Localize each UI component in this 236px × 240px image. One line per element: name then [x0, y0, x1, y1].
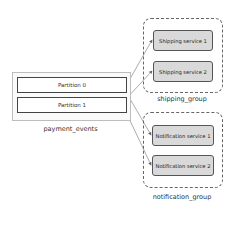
partition-1[interactable]: Partition 1 — [17, 97, 127, 113]
service-notification-2[interactable]: Notification service 2 — [152, 155, 214, 176]
service-notification-1[interactable]: Notification service 1 — [152, 125, 214, 146]
group-notification-label: notification_group — [143, 193, 221, 201]
service-notification-2-label: Notification service 2 — [156, 163, 211, 169]
topic-label: payment_events — [12, 125, 129, 133]
service-shipping-1[interactable]: Shipping service 1 — [153, 30, 213, 51]
service-notification-1-label: Notification service 1 — [156, 133, 211, 139]
service-shipping-2-label: Shipping service 2 — [159, 69, 207, 75]
partition-0-label: Partition 0 — [58, 82, 86, 88]
group-notification — [143, 112, 223, 188]
service-shipping-1-label: Shipping service 1 — [159, 38, 207, 44]
partition-0[interactable]: Partition 0 — [17, 77, 127, 93]
partition-1-label: Partition 1 — [58, 102, 86, 108]
group-shipping-label: shipping_group — [143, 95, 221, 103]
service-shipping-2[interactable]: Shipping service 2 — [153, 61, 213, 82]
